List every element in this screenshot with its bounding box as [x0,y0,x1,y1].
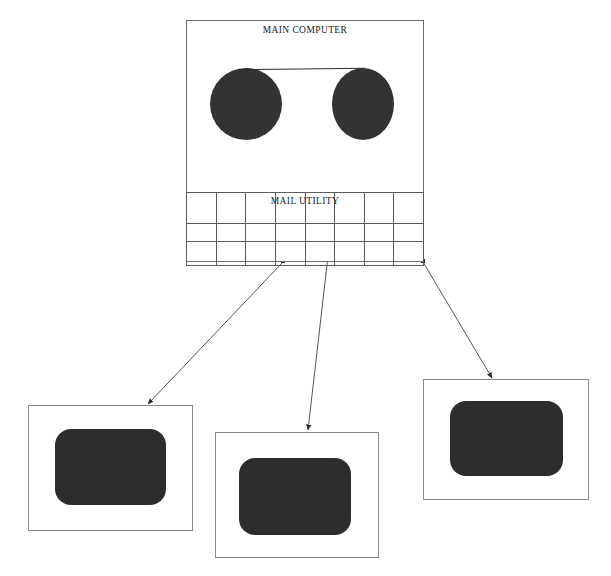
grid-cell [394,224,424,242]
disc-right-icon [332,68,394,140]
disc-left-icon [210,68,282,140]
grid-cell [275,193,305,224]
grid-cell [394,242,424,266]
main-computer-box: MAIN COMPUTER [186,20,424,262]
grid-cell [305,193,335,224]
grid-cell [335,193,365,224]
terminal-2-screen [239,458,351,535]
grid-cell [246,224,276,242]
grid-cell [216,242,246,266]
grid-cell [364,193,394,224]
grid-cell [187,224,217,242]
terminal-2-box [215,432,379,558]
grid-cell [335,242,365,266]
table-row [187,193,424,224]
terminal-3-box [423,379,589,500]
grid-cell [187,242,217,266]
grid-cell [364,224,394,242]
disc-connector-line [245,68,365,70]
table-row [187,242,424,266]
main-computer-label: MAIN COMPUTER [187,25,423,35]
grid-cell [216,224,246,242]
grid-cell [246,242,276,266]
grid-cell [275,224,305,242]
grid-cell [335,224,365,242]
connector-arrow-terminal-3 [423,262,492,378]
grid-cell [216,193,246,224]
grid-cell [275,242,305,266]
grid-cell [246,193,276,224]
grid-cell [394,193,424,224]
grid-cell [305,224,335,242]
connector-arrow-terminal-2 [308,239,330,430]
terminal-1-screen [55,429,166,505]
grid-cell [305,242,335,266]
table-row [187,224,424,242]
mail-utility-table [186,192,424,266]
terminal-1-box [28,405,193,531]
terminal-3-screen [450,401,563,476]
mail-utility-grid: MAIL UTILITY [186,192,424,262]
connector-arrow-terminal-1 [148,262,283,404]
grid-cell [187,193,217,224]
grid-cell [364,242,394,266]
